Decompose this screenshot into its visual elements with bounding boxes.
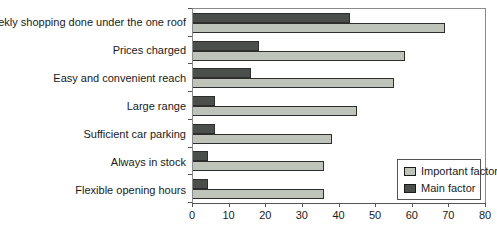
x-axis-tick [448,203,449,207]
bar-important-factor [193,51,405,61]
x-axis-tick-label: 20 [259,209,271,221]
x-axis-tick [265,203,266,207]
category-label: Flexible opening hours [75,184,186,196]
bar-important-factor [193,134,332,144]
bar-main-factor [193,151,208,161]
x-axis-tick-label: 10 [223,209,235,221]
x-axis-tick-label: 0 [189,209,195,221]
category-label: Large range [127,100,186,112]
bar-main-factor [193,96,215,106]
category-label: Weekly shopping done under the one roof [0,16,186,28]
grouped-bar-chart: Weekly shopping done under the one roofP… [0,0,497,229]
y-axis-category-labels: Weekly shopping done under the one roofP… [0,8,186,204]
bar-main-factor [193,124,215,134]
category-label: Always in stock [111,156,186,168]
bar-main-factor [193,41,259,51]
plot-area: Important factor Main factor [192,8,486,204]
bar-important-factor [193,106,357,116]
legend-label: Important factor [421,165,497,177]
category-label: Easy and convenient reach [53,72,186,84]
legend-swatch-main-factor [404,184,416,193]
x-axis-tick [485,203,486,207]
category-row [193,120,485,148]
bar-important-factor [193,189,324,199]
x-axis-tick [412,203,413,207]
legend: Important factor Main factor [397,159,481,200]
x-axis-tick [375,203,376,207]
x-axis-tick-label: 40 [332,209,344,221]
x-axis-tick [229,203,230,207]
x-axis-tick-label: 50 [369,209,381,221]
bar-main-factor [193,179,208,189]
category-label: Sufficient car parking [83,128,186,140]
bar-important-factor [193,23,445,33]
category-row [193,92,485,120]
x-axis: 01020304050607080 [192,203,485,227]
category-row [193,37,485,65]
x-axis-tick [302,203,303,207]
x-axis-tick-label: 60 [406,209,418,221]
bar-main-factor [193,13,350,23]
bar-main-factor [193,68,251,78]
x-axis-tick-label: 30 [296,209,308,221]
legend-item-main-factor: Main factor [404,182,475,194]
x-axis-tick-label: 70 [442,209,454,221]
legend-swatch-important-factor [404,167,416,176]
bar-important-factor [193,78,394,88]
category-label: Prices charged [113,44,186,56]
category-row [193,64,485,92]
legend-label: Main factor [421,182,475,194]
x-axis-tick [339,203,340,207]
bar-important-factor [193,161,324,171]
x-axis-tick-label: 80 [479,209,491,221]
legend-item-important-factor: Important factor [404,165,475,177]
x-axis-tick [192,203,193,207]
category-row [193,9,485,37]
